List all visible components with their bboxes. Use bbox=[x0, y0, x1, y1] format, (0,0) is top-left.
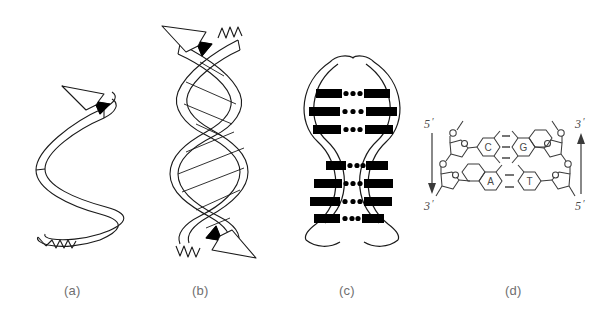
panel-c-rungs-upper bbox=[309, 89, 397, 134]
panel-label-d: (d) bbox=[505, 283, 522, 298]
panel-d-left-label-3prime-mark: ′ bbox=[432, 198, 434, 209]
panel-d-left-label-5prime-mark: ′ bbox=[432, 116, 434, 127]
figure-background bbox=[0, 0, 593, 313]
panel-d-left-label-5prime: 5 bbox=[424, 117, 430, 131]
panel-d-right-label-3prime: 3 bbox=[574, 117, 581, 131]
panel-d-left-label-3prime: 3 bbox=[423, 199, 430, 213]
panel-d-right-label-5prime-mark: ′ bbox=[583, 198, 585, 209]
panel-label-b: (b) bbox=[192, 283, 209, 298]
panel-d-base-letter-t: T bbox=[526, 176, 532, 187]
dna-structure-figure: C G A T 5 ′ 3 ′ 3 ′ 5 ′ bbox=[0, 0, 593, 313]
panel-d-right-label-5prime: 5 bbox=[575, 199, 581, 213]
panel-d-right-label-3prime-mark: ′ bbox=[583, 116, 585, 127]
panel-d-base-letter-c: C bbox=[484, 142, 491, 153]
panel-label-a: (a) bbox=[64, 283, 81, 298]
panel-d-base-letter-a: A bbox=[487, 176, 494, 187]
panel-label-c: (c) bbox=[339, 283, 355, 298]
panel-d-base-letter-g: G bbox=[520, 142, 528, 153]
